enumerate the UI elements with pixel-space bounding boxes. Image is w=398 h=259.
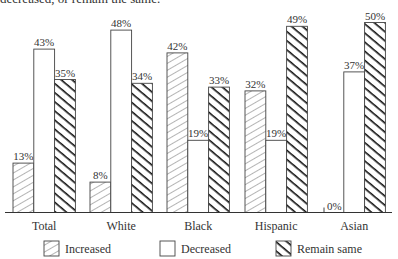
legend-swatch	[44, 241, 59, 256]
bar-increased	[167, 53, 188, 213]
bars-group: 13%43%35%8%48%34%42%19%33%32%19%49%0%37%…	[13, 10, 385, 213]
bar-group-white: 8%48%34%	[90, 17, 152, 212]
bar-decreased	[344, 72, 365, 213]
bar-remain-same	[365, 23, 386, 213]
bar-decreased	[266, 140, 287, 212]
legend-item-remain-same: Remain same	[276, 241, 362, 256]
bar-increased	[13, 163, 34, 212]
value-label: 42%	[167, 40, 187, 52]
category-label: White	[107, 219, 136, 233]
legend-item-increased: Increased	[44, 241, 111, 256]
category-label: Hispanic	[255, 219, 298, 233]
value-label: 43%	[34, 36, 54, 48]
value-label: 49%	[287, 13, 307, 25]
bar-decreased	[34, 49, 55, 212]
value-label: 34%	[132, 70, 152, 82]
bar-increased	[90, 182, 111, 212]
value-label: 37%	[344, 59, 364, 71]
bar-group-black: 42%19%33%	[167, 40, 229, 213]
bar-group-asian: 0%37%50%	[324, 10, 385, 213]
value-label: 13%	[13, 150, 33, 162]
value-label: 19%	[188, 127, 208, 139]
bar-remain-same	[55, 80, 76, 213]
category-label: Asian	[340, 219, 368, 233]
bar-decreased	[111, 30, 132, 212]
category-labels: TotalWhiteBlackHispanicAsian	[32, 219, 368, 233]
value-label: 32%	[245, 78, 265, 90]
legend-swatch	[160, 241, 175, 256]
legend-swatch	[276, 241, 291, 256]
bar-group-total: 13%43%35%	[13, 36, 75, 212]
bar-remain-same	[209, 87, 230, 212]
value-label: 19%	[266, 127, 286, 139]
category-label: Black	[184, 219, 212, 233]
bar-increased	[245, 91, 266, 213]
value-label: 8%	[93, 169, 108, 181]
value-label: 33%	[209, 74, 229, 86]
bar-group-hispanic: 32%19%49%	[245, 13, 307, 212]
bar-chart: 13%43%35%8%48%34%42%19%33%32%19%49%0%37%…	[0, 0, 398, 259]
value-label: 0%	[327, 200, 342, 212]
legend-item-decreased: Decreased	[160, 241, 231, 256]
legend: IncreasedDecreasedRemain same	[44, 241, 362, 256]
legend-label: Remain same	[297, 242, 362, 256]
value-label: 50%	[365, 10, 385, 22]
value-label: 48%	[111, 17, 131, 29]
bar-remain-same	[132, 83, 153, 212]
value-label: 35%	[55, 67, 75, 79]
legend-label: Decreased	[181, 242, 231, 256]
category-label: Total	[32, 219, 57, 233]
legend-label: Increased	[65, 242, 111, 256]
bar-decreased	[188, 140, 209, 212]
bar-remain-same	[287, 26, 308, 212]
